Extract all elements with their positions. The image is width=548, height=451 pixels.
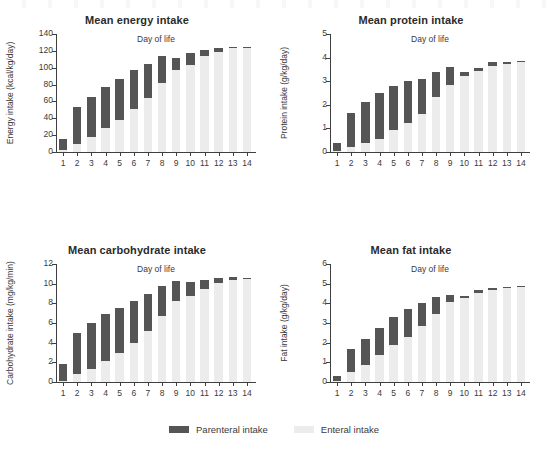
- bar-segment-enteral: [87, 137, 95, 152]
- x-tick-label: 9: [448, 388, 453, 398]
- y-tick-label: 5: [322, 278, 327, 289]
- y-tick-label: 3: [322, 75, 327, 86]
- y-axis-label-carbohydrate: Carbohydrate intake (mg/kg/min): [4, 264, 16, 382]
- bar-segment-enteral: [474, 71, 482, 152]
- x-tick-mark: [464, 382, 465, 386]
- stacked-bar: [347, 264, 355, 382]
- y-tick-label: 0: [48, 146, 53, 157]
- stacked-bar: [361, 264, 369, 382]
- y-axis-line: [56, 34, 57, 152]
- bar-segment-enteral: [200, 289, 208, 382]
- x-tick-label: 10: [186, 388, 195, 398]
- x-tick-label: 8: [160, 388, 165, 398]
- x-tick-label: 10: [460, 158, 469, 168]
- bar-segment-parenteral: [243, 47, 251, 48]
- stacked-bar: [101, 34, 109, 152]
- bar-segment-parenteral: [59, 139, 67, 150]
- y-tick-label: 4: [322, 297, 327, 308]
- bar-segment-enteral: [474, 293, 482, 382]
- y-axis-line: [56, 264, 57, 382]
- x-tick-mark: [479, 152, 480, 156]
- x-tick-mark: [408, 152, 409, 156]
- x-tick-label: 5: [117, 158, 122, 168]
- stacked-bar: [517, 264, 525, 382]
- x-tick-mark: [247, 152, 248, 156]
- bar-segment-parenteral: [101, 314, 109, 361]
- x-tick-mark: [450, 152, 451, 156]
- x-tick-mark: [507, 382, 508, 386]
- bar-segment-enteral: [200, 56, 208, 152]
- bar-segment-enteral: [73, 374, 81, 382]
- x-tick-label: 5: [391, 158, 396, 168]
- bar-segment-enteral: [87, 369, 95, 382]
- stacked-bar: [200, 34, 208, 152]
- bar-segment-parenteral: [73, 107, 81, 143]
- bar-segment-parenteral: [418, 79, 426, 114]
- stacked-bar: [87, 264, 95, 382]
- x-tick-mark: [120, 382, 121, 386]
- bar-segment-enteral: [130, 343, 138, 382]
- stacked-bar: [446, 34, 454, 152]
- bar-segment-parenteral: [130, 70, 138, 109]
- x-tick-mark: [351, 382, 352, 386]
- bar-segment-parenteral: [347, 113, 355, 147]
- x-tick-label: 1: [61, 388, 66, 398]
- panel-title-fat: Mean fat intake: [274, 244, 548, 256]
- bar-segment-parenteral: [158, 56, 166, 83]
- x-tick-label: 13: [228, 158, 237, 168]
- figure-root: Mean energy intake Energy intake (kcal/k…: [0, 0, 548, 451]
- x-axis-label-carbohydrate: Day of life: [56, 264, 256, 274]
- bar-segment-enteral: [158, 83, 166, 152]
- x-axis-label-energy: Day of life: [56, 34, 256, 44]
- x-tick-label: 12: [214, 388, 223, 398]
- stacked-bar: [488, 264, 496, 382]
- bar-segment-enteral: [59, 150, 67, 152]
- stacked-bar: [214, 34, 222, 152]
- y-tick-label: 4: [48, 337, 53, 348]
- x-tick-mark: [422, 382, 423, 386]
- bar-segment-parenteral: [375, 328, 383, 356]
- x-tick-mark: [162, 152, 163, 156]
- stacked-bar: [503, 34, 511, 152]
- x-tick-mark: [91, 382, 92, 386]
- bar-segment-enteral: [404, 123, 412, 152]
- plot-area-carbohydrate: 0246810121234567891011121314: [56, 264, 254, 382]
- stacked-bar: [186, 34, 194, 152]
- bar-segment-parenteral: [432, 72, 440, 97]
- bar-segment-enteral: [130, 109, 138, 152]
- stacked-bar: [214, 264, 222, 382]
- bar-segment-enteral: [214, 52, 222, 152]
- y-tick-label: 4: [322, 52, 327, 63]
- bar-segment-enteral: [186, 296, 194, 382]
- bar-segment-enteral: [158, 316, 166, 382]
- x-tick-label: 3: [89, 388, 94, 398]
- x-tick-label: 3: [363, 388, 368, 398]
- y-tick-label: 60: [44, 95, 53, 106]
- x-tick-label: 3: [89, 158, 94, 168]
- x-tick-label: 2: [349, 388, 354, 398]
- y-tick-label: 40: [44, 112, 53, 123]
- stacked-bar: [347, 34, 355, 152]
- bar-segment-enteral: [214, 283, 222, 382]
- stacked-bar: [59, 34, 67, 152]
- x-tick-mark: [422, 152, 423, 156]
- x-tick-label: 12: [214, 158, 223, 168]
- x-tick-label: 3: [363, 158, 368, 168]
- stacked-bar: [418, 34, 426, 152]
- x-tick-mark: [148, 382, 149, 386]
- bar-segment-enteral: [389, 130, 397, 152]
- x-tick-mark: [77, 382, 78, 386]
- stacked-bar: [389, 34, 397, 152]
- bar-segment-enteral: [488, 290, 496, 382]
- x-tick-label: 4: [103, 158, 108, 168]
- stacked-bar: [144, 34, 152, 152]
- x-tick-label: 8: [434, 158, 439, 168]
- y-tick-label: 6: [322, 258, 327, 269]
- x-axis-line: [56, 382, 256, 383]
- y-axis-line: [330, 34, 331, 152]
- panel-carbohydrate: Mean carbohydrate intake Carbohydrate in…: [0, 238, 274, 443]
- bar-segment-enteral: [115, 120, 123, 152]
- x-axis-line: [56, 152, 256, 153]
- bar-segment-enteral: [144, 331, 152, 382]
- bar-segment-parenteral: [460, 296, 468, 299]
